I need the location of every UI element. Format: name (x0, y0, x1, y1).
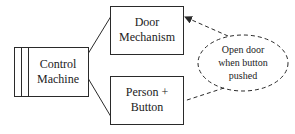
person-button-node: Person + Button (111, 77, 184, 125)
requirement-label-line1: Open door (222, 44, 265, 55)
person-button-label-line1: Person + (126, 85, 169, 99)
door-mechanism-label-line2: Mechanism (119, 30, 176, 44)
machine-to-door-edge (89, 17, 111, 53)
requirement-node: Open door when button pushed (198, 35, 288, 91)
requirement-label-line3: pushed (229, 70, 257, 81)
person-button-label-line2: Button (131, 100, 164, 114)
requirement-to-person-edge (184, 88, 224, 101)
door-mechanism-node: Door Mechanism (111, 7, 184, 55)
requirement-label-line2: when button (218, 57, 268, 68)
problem-diagram: Control Machine Door Mechanism Person + … (0, 0, 295, 134)
door-mechanism-label-line1: Door (135, 15, 160, 29)
machine-to-person-edge (89, 79, 111, 116)
control-machine-label-line2: Machine (37, 72, 79, 86)
control-machine-label-line1: Control (40, 57, 77, 71)
requirement-to-door-arrow (185, 17, 228, 36)
control-machine-node: Control Machine (15, 48, 89, 97)
